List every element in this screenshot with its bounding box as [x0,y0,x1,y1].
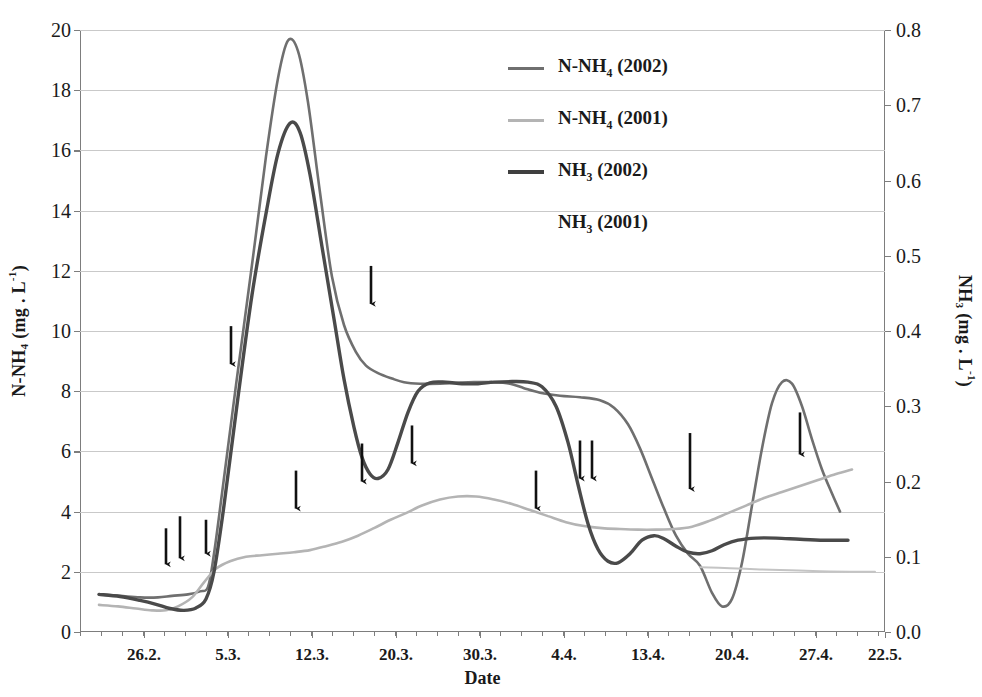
legend-item-label: NH3 (2001) [558,211,648,237]
series-line [700,567,875,572]
legend-item-label: N-NH4 (2001) [558,107,668,133]
legend-item[interactable]: N-NH4 (2001) [508,94,748,146]
legend-swatch-icon [508,170,544,174]
legend-item-label: N-NH4 (2002) [558,55,668,81]
legend-item[interactable]: N-NH4 (2002) [508,42,748,94]
chart-figure: N-NH4 (mg . L-1) NH3 (mg . L-1) Date 024… [0,0,982,697]
legend-swatch-icon [508,67,544,70]
chart-legend: N-NH4 (2002)N-NH4 (2001)NH3 (2002)NH3 (2… [508,42,748,250]
legend-item[interactable]: NH3 (2002) [508,146,748,198]
legend-swatch-icon [508,119,544,122]
data-curves [0,0,982,697]
legend-item-label: NH3 (2002) [558,159,648,185]
legend-item[interactable]: NH3 (2001) [508,198,748,250]
